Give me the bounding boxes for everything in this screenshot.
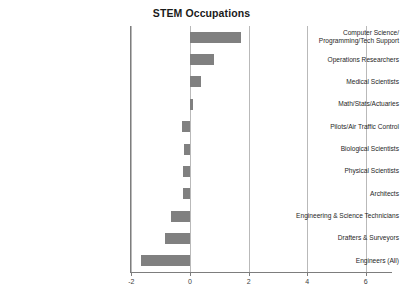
- x-tick-label: 0: [175, 278, 205, 285]
- bar: [190, 76, 201, 87]
- category-label: Biological Scientists: [277, 145, 403, 153]
- category-label: Physical Scientists: [277, 167, 403, 175]
- category-label: Medical Scientists: [277, 78, 403, 86]
- bar: [141, 255, 190, 266]
- category-label-line: Programming/Tech Support: [277, 37, 399, 45]
- x-tick-label: -2: [116, 278, 146, 285]
- category-label-line: Architects: [277, 190, 399, 198]
- chart-title: STEM Occupations: [0, 7, 403, 19]
- x-tick-label: 2: [234, 278, 264, 285]
- x-axis-line: [130, 272, 392, 273]
- category-label: Architects: [277, 190, 403, 198]
- tick-mark-2: [249, 272, 250, 276]
- bar: [182, 121, 190, 132]
- category-label: Computer Science/Programming/Tech Suppor…: [277, 29, 403, 45]
- tick-mark-6: [366, 272, 367, 276]
- category-label: Engineering & Science Technicians: [277, 212, 403, 220]
- bar: [183, 188, 190, 199]
- category-label-line: Medical Scientists: [277, 78, 399, 86]
- category-label-line: Math/Stats/Actuaries: [277, 100, 399, 108]
- category-label: Pilots/Air Traffic Control: [277, 123, 403, 131]
- category-label-line: Pilots/Air Traffic Control: [277, 123, 399, 131]
- tick-mark--2: [131, 272, 132, 276]
- category-label: Engineers (All): [277, 257, 403, 265]
- bar: [190, 99, 193, 110]
- gridline-2: [249, 26, 250, 272]
- category-label-line: Computer Science/: [277, 29, 399, 37]
- category-label-line: Physical Scientists: [277, 167, 399, 175]
- category-label: Operations Researchers: [277, 56, 403, 64]
- category-label-line: Drafters & Surveyors: [277, 234, 399, 242]
- tick-mark-4: [307, 272, 308, 276]
- bar: [190, 54, 214, 65]
- x-tick-label: 4: [292, 278, 322, 285]
- tick-mark-0: [190, 272, 191, 276]
- bar: [165, 233, 190, 244]
- category-label-line: Operations Researchers: [277, 56, 399, 64]
- category-label-line: Engineering & Science Technicians: [277, 212, 399, 220]
- category-label-line: Engineers (All): [277, 257, 399, 265]
- x-tick-label: 6: [351, 278, 381, 285]
- bar: [171, 211, 190, 222]
- category-label: Math/Stats/Actuaries: [277, 100, 403, 108]
- bar: [190, 32, 241, 43]
- category-label-line: Biological Scientists: [277, 145, 399, 153]
- stem-occupations-chart: STEM Occupations -20246 Computer Science…: [0, 0, 403, 299]
- bar: [183, 166, 190, 177]
- bar: [184, 144, 190, 155]
- category-label: Drafters & Surveyors: [277, 234, 403, 242]
- gridline--2: [131, 26, 132, 272]
